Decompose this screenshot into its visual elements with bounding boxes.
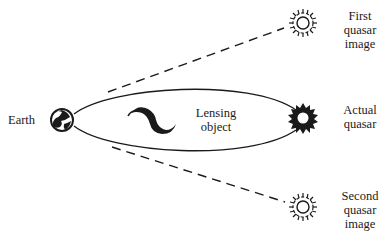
dashed-line-second-image <box>112 147 285 202</box>
earth-globe-icon <box>51 109 73 131</box>
quasar-image-outline-icon-second <box>289 193 317 221</box>
quasar-image-outline-icon-first <box>289 9 317 37</box>
earth-label: Earth <box>8 113 35 127</box>
second-quasar-image-label: Second quasar image <box>336 189 384 231</box>
light-path-lower <box>74 126 296 151</box>
first-quasar-image-label: First quasar image <box>336 9 384 51</box>
actual-quasar-label: Actual quasar <box>336 103 384 131</box>
lensing-object-label: Lensing object <box>188 106 244 134</box>
dashed-line-first-image <box>108 28 284 92</box>
light-path-upper <box>74 89 296 114</box>
galaxy-swirl-icon <box>128 107 176 134</box>
